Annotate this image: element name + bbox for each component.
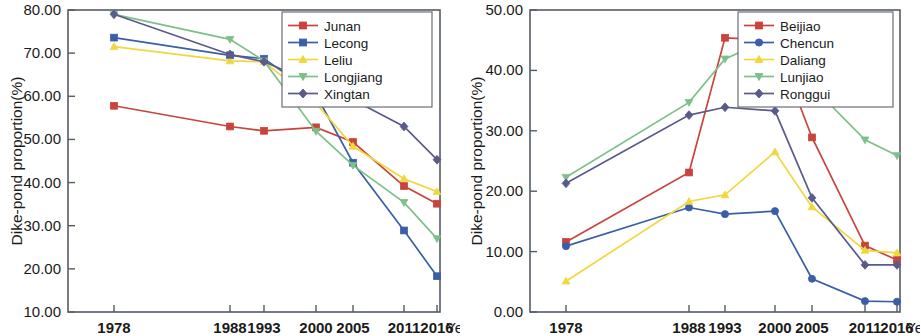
data-point [400, 175, 408, 182]
data-point [226, 36, 234, 43]
series-line [566, 208, 897, 302]
data-point [261, 127, 268, 134]
data-point [111, 34, 118, 41]
data-point [721, 211, 728, 218]
x-tick-label: 2005 [795, 319, 828, 336]
data-point [562, 243, 569, 250]
series-chencun [562, 204, 900, 305]
legend-label: Lecong [324, 36, 368, 51]
data-point [227, 123, 234, 130]
legend-label: Longjiang [324, 70, 383, 85]
chart-svg: Dike-pond proportion(%)0.0010.0020.0030.… [460, 0, 920, 336]
data-point [771, 208, 778, 215]
x-axis-title: Year [906, 319, 920, 336]
legend-marker [756, 22, 763, 29]
y-tick-label: 50.00 [485, 1, 523, 18]
data-point [111, 102, 118, 109]
y-axis-title: Dike-pond proportion(%) [8, 77, 25, 246]
y-tick-label: 50.00 [23, 130, 61, 147]
y-tick-label: 10.00 [485, 243, 523, 260]
data-point [434, 273, 441, 280]
dike-pond-proportion-figure: Dike-pond proportion(%)10.0020.0030.0040… [0, 0, 921, 336]
legend-label: Beijiao [780, 19, 821, 34]
y-tick-label: 60.00 [23, 87, 61, 104]
data-point [771, 148, 779, 155]
data-point [722, 34, 729, 41]
chart-panel-right: Dike-pond proportion(%)0.0010.0020.0030.… [460, 0, 920, 336]
legend-marker [300, 39, 307, 46]
data-point [685, 100, 693, 107]
legend-label: Ronggui [780, 87, 830, 102]
y-tick-label: 0.00 [494, 303, 523, 320]
legend-label: Chencun [780, 36, 834, 51]
data-point [685, 204, 692, 211]
x-tick-label: 1993 [708, 319, 741, 336]
x-tick-label: 1988 [672, 319, 705, 336]
x-tick-label: 2011 [388, 319, 421, 336]
y-tick-label: 10.00 [23, 303, 61, 320]
data-point [434, 200, 441, 207]
x-tick-label: 2000 [758, 319, 791, 336]
y-tick-label: 70.00 [23, 44, 61, 61]
x-tick-label: 1978 [97, 319, 130, 336]
data-point [893, 298, 900, 305]
x-tick-label: 1993 [247, 319, 280, 336]
legend-label: Lunjiao [780, 70, 824, 85]
data-point [809, 134, 816, 141]
data-point [721, 103, 729, 112]
x-tick-label: 2005 [336, 319, 369, 336]
y-tick-label: 40.00 [485, 61, 523, 78]
y-tick-label: 20.00 [23, 260, 61, 277]
x-tick-label: 1978 [549, 319, 582, 336]
data-point [808, 275, 815, 282]
x-tick-label: 2000 [299, 319, 332, 336]
y-axis-title: Dike-pond proportion(%) [468, 77, 485, 246]
x-axis-title: Year [446, 319, 460, 336]
legend-label: Leliu [324, 53, 353, 68]
series-junan [111, 102, 441, 207]
y-tick-label: 80.00 [23, 1, 61, 18]
series-ronggui [562, 103, 901, 269]
data-point [562, 179, 570, 188]
data-point [771, 106, 779, 115]
legend-label: Daliang [780, 53, 826, 68]
data-point [686, 169, 693, 176]
data-point [401, 227, 408, 234]
data-point [401, 183, 408, 190]
chart-svg: Dike-pond proportion(%)10.0020.0030.0040… [0, 0, 460, 336]
chart-panel-left: Dike-pond proportion(%)10.0020.0030.0040… [0, 0, 460, 336]
series-line [114, 106, 437, 204]
legend-label: Junan [324, 19, 361, 34]
y-tick-label: 20.00 [485, 182, 523, 199]
x-tick-label: 2011 [849, 319, 882, 336]
data-point [861, 298, 868, 305]
chart-legend: BeijiaoChencunDaliangLunjiaoRonggui [738, 12, 893, 107]
series-line [566, 107, 897, 265]
data-point [562, 277, 570, 284]
y-tick-label: 40.00 [23, 174, 61, 191]
chart-legend: JunanLecongLeliuLongjiangXingtan [282, 12, 432, 107]
legend-marker [755, 39, 762, 46]
y-tick-label: 30.00 [485, 122, 523, 139]
data-point [685, 111, 693, 120]
legend-marker [300, 22, 307, 29]
y-tick-label: 30.00 [23, 217, 61, 234]
x-tick-label: 1988 [213, 319, 246, 336]
series-line [566, 152, 897, 281]
legend-label: Xingtan [324, 87, 370, 102]
